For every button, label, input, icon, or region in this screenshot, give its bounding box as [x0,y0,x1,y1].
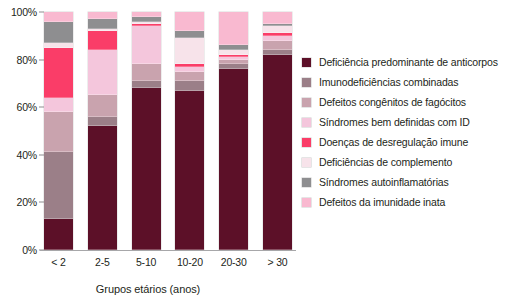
legend-label: Síndromes bem definidas com ID [319,116,470,128]
legend-label: Imunodeficiências combinadas [319,76,458,88]
legend-item: Defeitos da imunidade inata [302,192,521,212]
legend-swatch [302,78,311,87]
legend-swatch [302,138,311,147]
bar-segment [219,50,248,55]
bar-segment [263,55,292,250]
bar-column [263,12,292,250]
bar-stack [44,12,73,250]
bar-segment [88,29,117,31]
bar-segment [88,31,117,50]
bar-segment [132,12,161,17]
bar-segment [44,12,73,22]
bar-segment [219,12,248,45]
bar-segment [44,98,73,112]
bar-segment [44,22,73,43]
bar-segment [175,67,204,72]
bar-segment [263,41,292,51]
bar-segment [219,69,248,250]
bar-segment [44,152,73,219]
legend-label: Deficiência predominante de anticorpos [319,56,498,68]
bar-segment [219,60,248,65]
bar-segment [175,64,204,66]
legend-label: Doenças de desregulação imune [319,136,468,148]
x-axis-tick-label: 5-10 [132,256,161,276]
plot-area [44,12,292,250]
bar-segment [175,12,204,31]
y-axis-tick-label: 0% [22,244,37,256]
x-axis-tick-label: < 2 [44,256,73,276]
legend-item: Doenças de desregulação imune [302,132,521,152]
legend-item: Deficiências de complemento [302,152,521,172]
bar-segment [88,50,117,95]
y-axis-tick-label: 40% [17,149,37,161]
x-axis-tick-label: > 30 [263,256,292,276]
y-axis-tick-label: 80% [17,54,37,66]
legend-item: Síndromes bem definidas com ID [302,112,521,132]
bar-segment [263,26,292,33]
bar-segment [88,12,117,19]
bar-group [44,12,292,250]
bar-segment [44,112,73,152]
bar-segment [263,33,292,35]
legend-swatch [302,58,311,67]
bar-stack [263,12,292,250]
bar-segment [132,88,161,250]
legend-item: Síndromes autoinflamatórias [302,172,521,192]
bar-stack [88,12,117,250]
bar-segment [132,22,161,24]
legend-item: Defeitos congênitos de fagócitos [302,92,521,112]
stacked-bar-chart: 0%20%40%60%80%100% < 22-55-1010-2020-30>… [0,0,521,308]
bar-column [88,12,117,250]
legend-label: Síndromes autoinflamatórias [319,176,449,188]
bar-segment [132,64,161,81]
bar-segment [175,72,204,82]
bar-stack [219,12,248,250]
bar-column [175,12,204,250]
legend-swatch [302,98,311,107]
bar-segment [132,17,161,22]
y-axis: 0%20%40%60%80%100% [0,12,44,250]
bar-segment [44,43,73,48]
bar-segment [263,24,292,26]
bar-stack [132,12,161,250]
bar-column [44,12,73,250]
y-axis-tick-label: 20% [17,196,37,208]
legend-label: Deficiências de complemento [319,156,452,168]
x-axis-tick-labels: < 22-55-1010-2020-30> 30 [44,256,292,276]
bar-segment [88,126,117,250]
bar-segment [175,81,204,91]
bar-segment [132,81,161,88]
legend-swatch [302,198,311,207]
bar-column [132,12,161,250]
legend: Deficiência predominante de anticorposIm… [296,0,521,308]
bar-segment [44,219,73,250]
legend-swatch [302,118,311,127]
legend-swatch [302,158,311,167]
bar-column [219,12,248,250]
legend-label: Defeitos congênitos de fagócitos [319,96,466,108]
bar-segment [132,26,161,64]
bar-segment [175,38,204,64]
bar-segment [175,31,204,38]
y-axis-tick-label: 100% [11,6,37,18]
bar-segment [88,117,117,127]
legend-swatch [302,178,311,187]
bar-segment [263,12,292,24]
legend-item: Imunodeficiências combinadas [302,72,521,92]
x-axis-tick-label: 10-20 [175,256,204,276]
bar-segment [219,64,248,69]
x-axis-tick-label: 2-5 [88,256,117,276]
bar-stack [175,12,204,250]
bar-segment [88,19,117,29]
x-axis-line [40,250,296,251]
legend-label: Defeitos da imunidade inata [319,196,445,208]
bar-segment [219,57,248,59]
x-axis-tick-label: 20-30 [219,256,248,276]
legend-item: Deficiência predominante de anticorpos [302,52,521,72]
bar-segment [219,55,248,57]
plot-region: 0%20%40%60%80%100% < 22-55-1010-2020-30>… [0,0,296,308]
bar-segment [44,48,73,98]
bar-segment [263,50,292,55]
bar-segment [219,45,248,50]
bar-segment [88,95,117,116]
